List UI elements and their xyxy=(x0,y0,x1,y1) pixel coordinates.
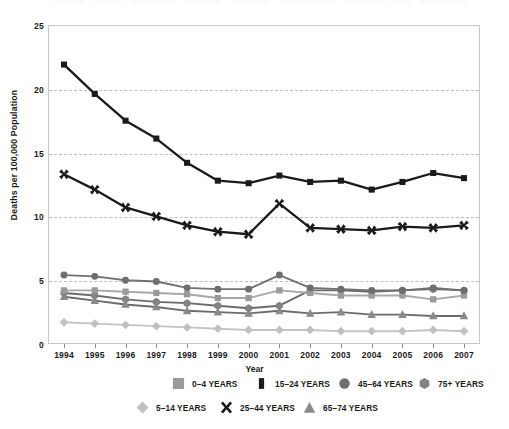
data-point xyxy=(184,299,191,307)
triangle-marker-icon xyxy=(303,401,316,414)
square-marker-icon xyxy=(172,377,185,390)
legend-label: 75+ YEARS xyxy=(438,379,484,389)
data-point xyxy=(90,319,99,328)
legend-item-15-24-years[interactable]: 15–24 YEARS xyxy=(255,377,330,390)
data-point xyxy=(276,302,283,310)
legend-item-75+-years[interactable]: 75+ YEARS xyxy=(418,377,484,390)
legend-label: 25–44 YEARS xyxy=(240,403,295,413)
data-point xyxy=(59,169,69,179)
data-point xyxy=(184,291,190,297)
series-45-64-years xyxy=(61,272,468,294)
legend-item-0-4-years[interactable]: 0–4 YEARS xyxy=(172,377,237,390)
x-tickmark-2005 xyxy=(402,344,403,348)
circle-marker-icon xyxy=(338,377,351,390)
x-tickmark-2003 xyxy=(341,344,342,348)
data-point xyxy=(122,289,128,295)
legend-item-25-44-years[interactable]: 25–44 YEARS xyxy=(220,401,295,414)
data-point xyxy=(307,179,313,185)
top-clipped-artifact xyxy=(0,0,509,7)
x-axis-title: Year xyxy=(0,364,509,374)
data-point xyxy=(337,327,346,336)
data-point xyxy=(92,287,98,293)
data-point xyxy=(214,286,221,293)
data-point xyxy=(245,286,252,293)
data-point xyxy=(274,199,284,209)
data-point xyxy=(213,324,222,333)
y-tick-25: 25 xyxy=(26,21,44,31)
y-tick-0: 0 xyxy=(26,340,44,350)
legend-label: 0–4 YEARS xyxy=(192,379,237,389)
diamond-marker-icon xyxy=(136,401,149,414)
x-tickmark-2004 xyxy=(372,344,373,348)
data-point xyxy=(338,292,344,298)
y-tick-20: 20 xyxy=(26,85,44,95)
series-5-14-years xyxy=(60,318,469,336)
data-point xyxy=(461,287,468,294)
x-tickmark-2000 xyxy=(249,344,250,348)
data-point xyxy=(276,287,282,293)
data-point xyxy=(399,287,406,294)
x-tickmark-1998 xyxy=(187,344,188,348)
x-tickmark-2001 xyxy=(279,344,280,348)
y-tick-10: 10 xyxy=(26,212,44,222)
series-layer xyxy=(48,25,480,344)
data-point xyxy=(92,91,98,97)
data-point xyxy=(184,160,190,166)
data-point xyxy=(430,170,436,176)
data-point xyxy=(121,320,130,329)
x-tick-2007: 2007 xyxy=(444,350,484,360)
data-point xyxy=(460,327,469,336)
data-point xyxy=(275,326,284,335)
x-tickmark-1994 xyxy=(64,344,65,348)
data-point xyxy=(276,173,282,179)
data-point xyxy=(214,302,221,310)
data-point xyxy=(368,287,375,294)
data-point xyxy=(246,180,252,186)
data-point xyxy=(60,318,69,327)
legend: 0–4 YEARS15–24 YEARS45–64 YEARS75+ YEARS… xyxy=(0,374,509,426)
x-marker-icon xyxy=(220,401,233,414)
chart-figure: Deaths per 100,000 Population 25 20 15 1… xyxy=(0,0,509,429)
series-15-24-years xyxy=(61,62,467,193)
data-point xyxy=(461,175,467,181)
data-point xyxy=(338,178,344,184)
data-point xyxy=(215,178,221,184)
legend-item-5-14-years[interactable]: 5–14 YEARS xyxy=(136,401,206,414)
data-point xyxy=(152,322,161,331)
data-point xyxy=(122,277,129,284)
legend-item-45-64-years[interactable]: 45–64 YEARS xyxy=(338,377,413,390)
legend-label: 5–14 YEARS xyxy=(156,403,206,413)
data-point xyxy=(153,136,159,142)
data-point xyxy=(245,304,252,312)
data-point xyxy=(153,298,160,306)
x-tickmark-2007 xyxy=(464,344,465,348)
data-point xyxy=(61,272,68,279)
x-tickmark-1999 xyxy=(218,344,219,348)
data-point xyxy=(90,185,100,195)
data-point xyxy=(430,296,436,302)
series-line xyxy=(64,65,464,190)
y-tick-15: 15 xyxy=(26,149,44,159)
data-point xyxy=(184,284,191,291)
legend-label: 45–64 YEARS xyxy=(358,379,413,389)
x-tickmark-1997 xyxy=(156,344,157,348)
data-point xyxy=(153,290,159,296)
data-point xyxy=(183,323,192,332)
data-point xyxy=(215,295,221,301)
data-point xyxy=(369,187,375,193)
data-point xyxy=(337,286,344,293)
data-point xyxy=(123,118,129,124)
data-point xyxy=(61,287,67,293)
x-tickmark-1996 xyxy=(126,344,127,348)
data-point xyxy=(244,326,253,335)
data-point xyxy=(61,62,67,68)
legend-item-65-74-years[interactable]: 65–74 YEARS xyxy=(303,401,378,414)
legend-label: 65–74 YEARS xyxy=(323,403,378,413)
data-point xyxy=(399,179,405,185)
data-point xyxy=(245,295,251,301)
data-point xyxy=(307,284,314,291)
square-marker-icon xyxy=(255,377,268,390)
legend-label: 15–24 YEARS xyxy=(275,379,330,389)
data-point xyxy=(276,272,283,279)
x-tickmark-1995 xyxy=(95,344,96,348)
